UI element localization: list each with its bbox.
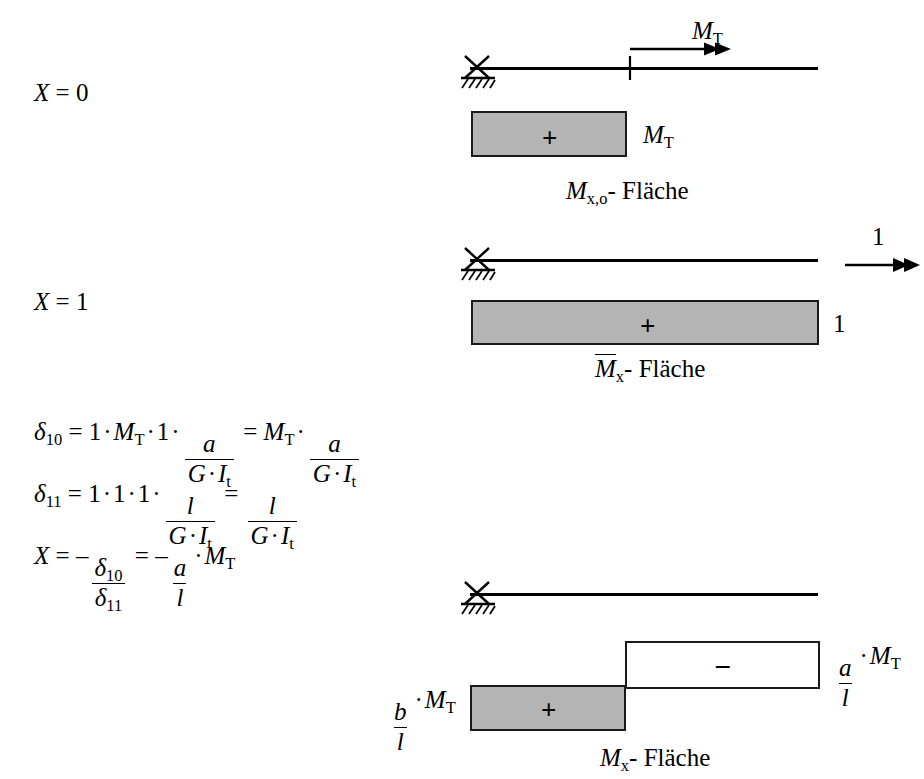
label-a-over-l-mt: al·MT xyxy=(833,643,901,711)
figure-canvas: X = 0 MT + xyxy=(0,0,924,779)
label-b-over-l-mt: bl·MT xyxy=(388,687,456,755)
pin-support-middle-icon xyxy=(459,244,501,284)
caption-bottom: Mx- Fläche xyxy=(600,745,710,770)
sign-plus-top: + xyxy=(542,125,557,152)
sign-plus-bottom: + xyxy=(541,697,556,724)
equation-delta11: δ11 = 1·1·1·lG·It = lG·It xyxy=(34,481,300,549)
caption-top: Mx,o- Fläche xyxy=(566,178,689,203)
equation-x-result: X = –δ10δ11 = –al·MT xyxy=(34,543,235,611)
caption-middle: Mx- Fläche xyxy=(595,354,705,381)
equation-delta10: δ10 = 1·MT·1·aG·It = MT·aG·It xyxy=(34,419,362,487)
sign-minus-bottom: – xyxy=(716,651,730,678)
sign-plus-middle: + xyxy=(640,313,655,340)
torque-arrow-top-icon xyxy=(630,40,740,58)
case-label-x0: X = 0 xyxy=(34,80,88,105)
unit-force-arrow-icon xyxy=(845,256,924,274)
middle-load-label: 1 xyxy=(872,224,885,249)
case-label-x1: X = 1 xyxy=(34,289,88,314)
beam-line-middle xyxy=(470,259,818,262)
pin-support-bottom-icon xyxy=(459,578,501,618)
pin-support-top-icon xyxy=(459,52,501,92)
load-tick-top-icon xyxy=(628,56,632,80)
beam-line-top xyxy=(470,67,818,70)
moment-area-value-middle: 1 xyxy=(833,311,846,336)
moment-area-value-top: MT xyxy=(643,122,674,147)
beam-line-bottom xyxy=(470,593,818,596)
